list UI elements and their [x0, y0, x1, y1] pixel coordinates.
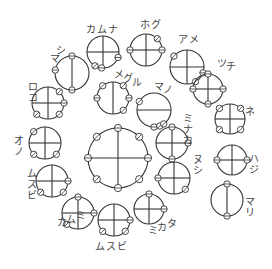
- small-cross-circle-icon: [161, 206, 167, 212]
- symbol-label: ホグ: [140, 18, 162, 30]
- symbol-node-mari: [211, 181, 243, 219]
- small-slash-circle-icon: [56, 88, 62, 94]
- small-cross-circle-icon: [127, 217, 133, 223]
- small-cross-circle-icon: [69, 87, 75, 93]
- small-cross-circle-icon: [127, 47, 133, 53]
- small-slash-circle-icon: [93, 133, 100, 140]
- symbol-node-ame: [170, 50, 206, 85]
- small-cross-circle-icon: [205, 101, 211, 107]
- katakamuna-diagram: カムナホグアメマシメグルマノツチコロネミナカオノハジムスビヌシマリカムミムスビミ…: [0, 0, 272, 269]
- small-cross-circle-icon: [151, 124, 157, 130]
- symbol-node-mano: [136, 93, 171, 130]
- small-slash-circle-icon: [33, 111, 39, 117]
- symbol-node-center: [84, 124, 151, 191]
- small-slash-circle-icon: [56, 111, 62, 117]
- small-slash-circle-icon: [136, 133, 143, 140]
- symbol-node-mikata: [134, 191, 167, 224]
- small-cross-circle-icon: [114, 124, 121, 131]
- small-slash-circle-icon: [53, 151, 59, 157]
- small-cross-circle-icon: [98, 65, 104, 71]
- small-cross-circle-icon: [224, 213, 230, 219]
- symbol-label: カムナ: [86, 24, 119, 35]
- small-cross-circle-icon: [146, 191, 152, 197]
- small-cross-circle-icon: [159, 47, 165, 53]
- symbol-node-nushi: [155, 162, 190, 194]
- small-slash-circle-icon: [37, 189, 43, 195]
- small-cross-circle-icon: [94, 95, 100, 101]
- small-slash-circle-icon: [237, 105, 243, 111]
- symbol-label: ネ: [245, 106, 256, 117]
- symbol-label: マシ: [50, 45, 66, 64]
- symbol-node-musubi2: [98, 204, 133, 236]
- small-cross-circle-icon: [75, 194, 81, 200]
- symbol-node-tsuchi: [190, 71, 226, 107]
- small-cross-circle-icon: [52, 67, 58, 73]
- small-slash-circle-icon: [120, 107, 126, 113]
- small-cross-circle-icon: [115, 54, 121, 60]
- small-cross-circle-icon: [205, 71, 211, 77]
- small-cross-circle-icon: [61, 100, 67, 106]
- small-slash-circle-icon: [30, 151, 36, 157]
- symbol-label: マリ: [245, 196, 255, 218]
- small-slash-circle-icon: [216, 105, 222, 111]
- symbol-node-ono: [29, 127, 61, 159]
- small-slash-circle-icon: [30, 128, 36, 134]
- small-slash-circle-icon: [136, 98, 142, 104]
- small-cross-circle-icon: [155, 175, 161, 181]
- small-slash-circle-icon: [171, 53, 177, 59]
- small-slash-circle-icon: [100, 83, 106, 89]
- symbol-node-megu: [94, 82, 132, 114]
- small-cross-circle-icon: [220, 86, 226, 92]
- small-cross-circle-icon: [169, 124, 175, 130]
- small-slash-circle-icon: [182, 186, 188, 192]
- small-cross-circle-icon: [169, 156, 175, 162]
- symbol-node-kamuna: [87, 36, 121, 71]
- symbol-label: ヌシ: [193, 154, 203, 176]
- small-cross-circle-icon: [114, 184, 121, 191]
- small-slash-circle-icon: [237, 126, 243, 132]
- small-cross-circle-icon: [224, 181, 230, 187]
- symbol-label: メグル: [114, 69, 142, 88]
- symbol-label: コロ: [28, 81, 38, 103]
- small-slash-circle-icon: [60, 189, 66, 195]
- symbol-label: ムスビ: [27, 168, 37, 201]
- symbol-label: ミカタ: [148, 218, 177, 236]
- symbol-label: ツチ: [217, 58, 236, 72]
- small-slash-circle-icon: [154, 35, 160, 41]
- small-slash-circle-icon: [92, 63, 98, 69]
- symbol-label: ハジ: [249, 153, 259, 175]
- small-cross-circle-icon: [69, 53, 75, 59]
- small-slash-circle-icon: [122, 228, 128, 234]
- small-cross-circle-icon: [84, 154, 91, 161]
- small-slash-circle-icon: [161, 121, 167, 127]
- symbol-label: ミナカ: [183, 113, 193, 146]
- small-cross-circle-icon: [144, 154, 151, 161]
- symbol-label: オノ: [14, 135, 24, 157]
- symbol-label: カムミ: [57, 210, 86, 228]
- small-slash-circle-icon: [216, 126, 222, 132]
- small-slash-circle-icon: [99, 228, 105, 234]
- small-cross-circle-icon: [214, 157, 220, 163]
- symbol-node-ne: [215, 104, 245, 134]
- symbol-label: ムスビ: [95, 241, 128, 252]
- small-cross-circle-icon: [91, 210, 97, 216]
- small-slash-circle-icon: [93, 176, 100, 183]
- small-cross-circle-icon: [65, 178, 71, 184]
- small-cross-circle-icon: [190, 86, 196, 92]
- small-slash-circle-icon: [136, 176, 143, 183]
- small-cross-circle-icon: [126, 95, 132, 101]
- symbol-node-musubi1: [36, 165, 71, 197]
- symbol-label: アメ: [178, 34, 200, 45]
- symbol-node-hashi: [214, 145, 250, 175]
- symbol-node-hogu: [127, 34, 165, 66]
